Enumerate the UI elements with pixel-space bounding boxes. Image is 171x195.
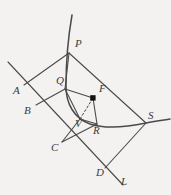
figure-canvas [0,0,171,195]
dashed-segment-V-F [80,98,93,119]
segment-D-S [105,123,146,168]
point-marker-F [90,95,95,100]
conic-curve [66,15,170,127]
point-label-V: V [75,118,82,129]
segment-F-R [93,98,97,124]
point-label-Q: Q [56,75,64,86]
segment-P-S [69,53,146,123]
geometry-figure: A B C D L P Q R S V F [0,0,171,195]
point-label-D: D [96,167,104,178]
point-label-B: B [24,105,31,116]
point-label-P: P [75,38,82,49]
point-label-L: L [121,176,127,187]
point-label-F: F [99,83,106,94]
point-label-C: C [51,142,58,153]
point-label-A: A [13,85,20,96]
point-label-S: S [148,110,154,121]
point-label-R: R [93,125,100,136]
